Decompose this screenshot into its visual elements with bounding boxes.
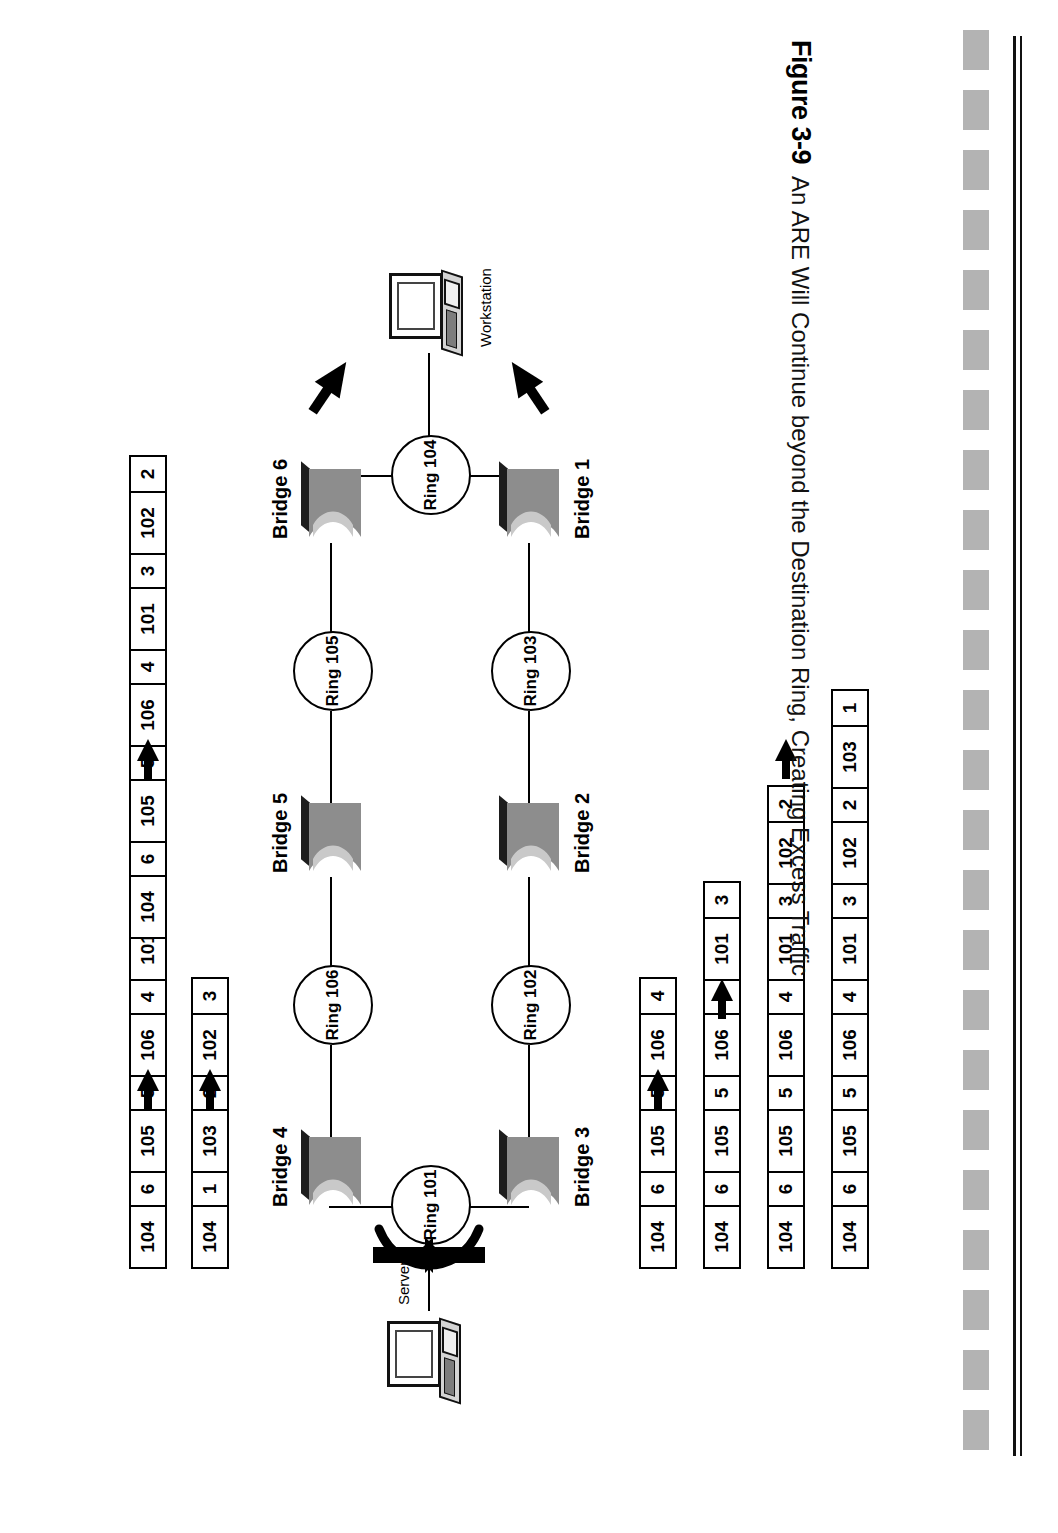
inbound-arrow-upper: [300, 351, 360, 419]
frame-cell: 105: [705, 1109, 739, 1171]
margin-dash: [963, 210, 989, 250]
frame-cell: 3: [131, 553, 165, 587]
margin-dash: [963, 270, 989, 310]
server-screen: [395, 1330, 433, 1378]
frame-cell: 1: [193, 1171, 227, 1205]
frame-cell: 5: [705, 1075, 739, 1109]
frame-cell: 103: [193, 1109, 227, 1171]
frame-cell: 104: [131, 875, 165, 937]
link-ring106-bridge5: [330, 877, 332, 969]
frame-a: 104610551064: [639, 977, 677, 1269]
frame-cell: 6: [641, 1171, 675, 1205]
inbound-arrow-lower: [498, 351, 558, 419]
frame-cell: 102: [131, 491, 165, 553]
ring-102[interactable]: Ring 102: [491, 965, 571, 1045]
caption-rule-thick: [1013, 36, 1016, 1456]
frame-cell: 104: [193, 1205, 227, 1267]
bridge-2-top-face: [499, 795, 508, 867]
flow-arrow-head: [137, 739, 159, 761]
flow-arrow-right-2: [137, 1069, 159, 1109]
flow-arrow-shaft: [144, 759, 152, 779]
link-bridge4-ring106: [330, 1045, 332, 1137]
ring-104-label: Ring 104: [421, 439, 441, 510]
margin-dash: [963, 90, 989, 130]
frame-cell: 102: [193, 1013, 227, 1075]
frame-cell: 106: [641, 1013, 675, 1075]
workstation-tower: [444, 278, 460, 309]
server-icon: [387, 1315, 467, 1401]
server-monitor: [387, 1321, 441, 1387]
bridge-5[interactable]: [301, 797, 361, 871]
bridge-6-top-face: [301, 461, 310, 533]
link-bridge5-ring105: [330, 711, 332, 803]
ring-105[interactable]: Ring 105: [293, 631, 373, 711]
workstation-screen: [397, 282, 435, 330]
frame-cell: 6: [705, 1171, 739, 1205]
workstation-icon: [389, 267, 469, 353]
margin-dash: [963, 1110, 989, 1150]
server-tower: [442, 1326, 458, 1357]
bridge-2-label: Bridge 2: [571, 792, 594, 872]
bridge-2[interactable]: [499, 797, 559, 871]
bridge-1-label: Bridge 1: [571, 458, 594, 538]
bridge-4-top-face: [301, 1129, 310, 1201]
margin-dash: [963, 150, 989, 190]
margin-dash: [963, 1290, 989, 1330]
margin-dash: [963, 450, 989, 490]
frame-cell: 6: [131, 841, 165, 875]
frame-cell: 106: [131, 683, 165, 745]
link-bridge2-ring103: [528, 711, 530, 803]
bridge-3-label: Bridge 3: [571, 1126, 594, 1206]
margin-dash: [963, 1050, 989, 1090]
link-ring101-bridge3: [463, 1206, 529, 1208]
ring-106-label: Ring 106: [323, 969, 343, 1040]
ring-103[interactable]: Ring 103: [491, 631, 571, 711]
link-ring105-bridge6: [330, 543, 332, 635]
flow-arrow-head: [199, 1069, 221, 1091]
figure-caption: Figure 3-9 An ARE Will Continue beyond t…: [785, 0, 905, 1533]
link-bridge3-ring102: [528, 1045, 530, 1137]
figure-number: Figure 3-9: [785, 40, 816, 164]
link-ring102-bridge2: [528, 877, 530, 969]
frame-e: 104110321023: [191, 977, 229, 1269]
bridge-4[interactable]: [301, 1131, 361, 1205]
ring-104[interactable]: Ring 104: [391, 435, 471, 515]
link-ring104-workstation: [428, 353, 430, 439]
bridge-1[interactable]: [499, 463, 559, 537]
figure-caption-text: An ARE Will Continue beyond the Destinat…: [785, 176, 814, 976]
margin-dash: [963, 990, 989, 1030]
frame-cell: 106: [131, 1013, 165, 1075]
flow-arrow-shaft: [718, 999, 726, 1019]
bridge-3-top-face: [499, 1129, 508, 1201]
frame-cell: 104: [641, 1205, 675, 1267]
frame-cell: 105: [131, 779, 165, 841]
margin-dash: [963, 630, 989, 670]
frame-cell: 101: [131, 587, 165, 649]
flow-arrow-left-1: [647, 1069, 669, 1109]
frame-cell: 104: [705, 1205, 739, 1267]
flow-arrow-shaft: [654, 1089, 662, 1109]
frame-cell: 4: [131, 979, 165, 1013]
frame-cell: 3: [705, 883, 739, 917]
bridge-3[interactable]: [499, 1131, 559, 1205]
frame-b: 1046105510641013: [703, 881, 741, 1269]
flow-arrow-head: [711, 979, 733, 1001]
workstation-monitor: [389, 273, 443, 339]
margin-dash: [963, 1350, 989, 1390]
frame-cell: 2: [131, 457, 165, 491]
workstation-label: Workstation: [477, 268, 494, 347]
margin-dash: [963, 510, 989, 550]
server-keyboard: [444, 1357, 455, 1397]
margin-dash-bar: [963, 30, 989, 1450]
bridge-5-top-face: [301, 795, 310, 867]
margin-dash: [963, 570, 989, 610]
bridge-1-top-face: [499, 461, 508, 533]
frame-cell: 4: [641, 979, 675, 1013]
flow-arrow-head: [647, 1069, 669, 1091]
ring-106[interactable]: Ring 106: [293, 965, 373, 1045]
frame-cell: 101: [705, 917, 739, 979]
flow-arrow-shaft: [206, 1089, 214, 1109]
flow-arrow-shaft: [144, 1089, 152, 1109]
bridge-6[interactable]: [301, 463, 361, 537]
margin-dash: [963, 390, 989, 430]
